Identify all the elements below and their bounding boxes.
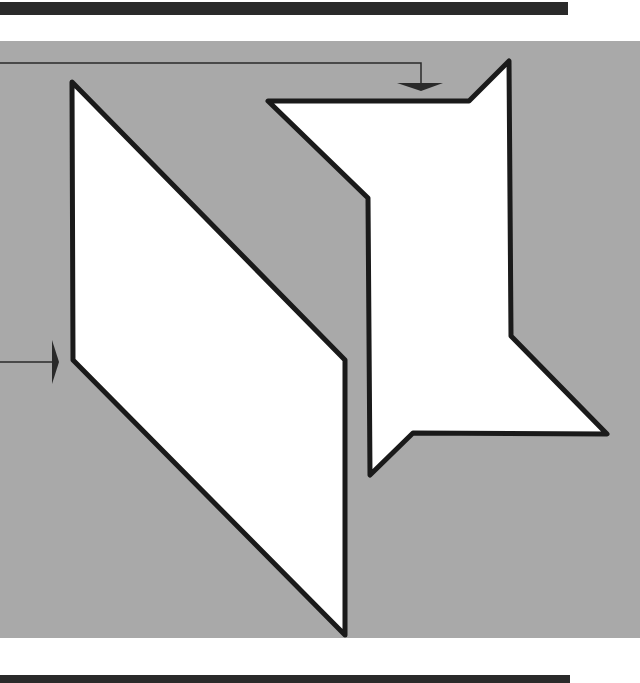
bottom-rule (0, 675, 570, 683)
figure-drawing (0, 0, 640, 683)
left-parallelogram-plane (72, 82, 345, 635)
arrow-down-icon (397, 83, 443, 91)
arrow-right-icon (52, 340, 59, 384)
top-arrow-line (0, 63, 421, 84)
